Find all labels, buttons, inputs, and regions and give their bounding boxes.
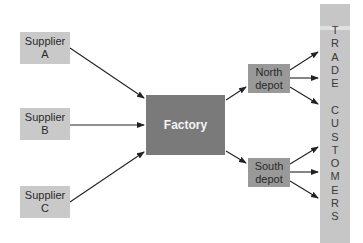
arrow-south-to-customers-3 <box>290 181 318 198</box>
south-depot-box: Southdepot <box>248 158 290 187</box>
vertical-letter: D <box>320 64 350 77</box>
supplier-b-label: Supplier <box>25 111 65 124</box>
vertical-letter: M <box>320 170 350 183</box>
trade-word: TRADE <box>320 24 350 90</box>
north-depot-box: Northdepot <box>248 64 290 93</box>
south-depot-label-2: depot <box>255 173 284 186</box>
arrow-supplier-c-to-factory <box>70 152 144 202</box>
arrow-north-to-customers-3 <box>290 87 318 104</box>
vertical-letter: R <box>320 37 350 50</box>
supplier-a-box: SupplierA <box>20 32 70 64</box>
vertical-letter: C <box>320 104 350 117</box>
vertical-letter: A <box>320 51 350 64</box>
factory-box: Factory <box>146 95 225 155</box>
vertical-letter: E <box>320 184 350 197</box>
factory-label: Factory <box>164 119 207 132</box>
vertical-letter: S <box>320 131 350 144</box>
vertical-letter: T <box>320 24 350 37</box>
vertical-letter: R <box>320 197 350 210</box>
south-depot-label-1: South <box>255 160 284 173</box>
supplier-b-box: SupplierB <box>20 108 70 140</box>
supplier-c-box: SupplierC <box>20 186 70 218</box>
vertical-letter: U <box>320 117 350 130</box>
supplier-a-label: Supplier <box>25 35 65 48</box>
trade-customers-bar: TRADE CUSTOMERS <box>320 4 350 243</box>
arrow-factory-to-south-depot <box>226 151 246 163</box>
vertical-letter: E <box>320 77 350 90</box>
vertical-letter: T <box>320 144 350 157</box>
arrow-north-to-customers-1 <box>290 52 318 70</box>
supplier-c-letter: C <box>25 202 65 215</box>
customers-word: CUSTOMERS <box>320 104 350 224</box>
supplier-b-letter: B <box>25 124 65 137</box>
vertical-letter: O <box>320 157 350 170</box>
north-depot-label-2: depot <box>255 79 283 92</box>
arrow-south-to-customers-1 <box>290 147 318 164</box>
north-depot-label-1: North <box>255 66 283 79</box>
arrow-factory-to-north-depot <box>226 87 246 100</box>
supplier-c-label: Supplier <box>25 189 65 202</box>
supplier-a-letter: A <box>25 48 65 61</box>
arrow-supplier-a-to-factory <box>70 48 144 98</box>
vertical-letter: S <box>320 210 350 223</box>
